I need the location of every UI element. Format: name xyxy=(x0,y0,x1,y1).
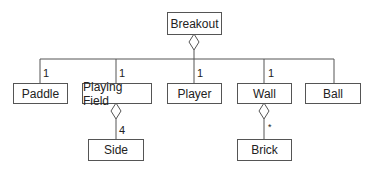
class-ball: Ball xyxy=(305,83,361,104)
class-breakout: Breakout xyxy=(167,12,222,35)
multiplicity-playing-field: 1 xyxy=(119,67,125,79)
multiplicity-brick: * xyxy=(268,122,272,132)
multiplicity-side: 4 xyxy=(119,124,125,136)
aggregation-diamond-icon xyxy=(259,103,269,119)
class-playing-field: Playing Field xyxy=(82,83,152,104)
class-side: Side xyxy=(88,139,144,161)
class-paddle: Paddle xyxy=(13,83,68,104)
multiplicity-player: 1 xyxy=(197,67,203,79)
class-brick: Brick xyxy=(237,139,292,161)
class-player: Player xyxy=(167,83,222,104)
class-wall: Wall xyxy=(237,83,292,104)
multiplicity-wall: 1 xyxy=(268,67,274,79)
aggregation-diamond-icon xyxy=(189,34,199,50)
multiplicity-paddle: 1 xyxy=(43,67,49,79)
